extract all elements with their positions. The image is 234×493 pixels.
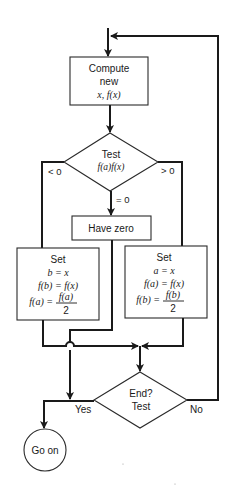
set-right-line3-den: 2: [170, 303, 176, 314]
set-left-line3-den: 2: [63, 305, 69, 316]
go-on-label: Go on: [31, 445, 58, 456]
set-left-line3-num: f(a): [59, 291, 74, 303]
yes-label: Yes: [75, 404, 91, 415]
set-right-line1: a = x: [153, 265, 175, 276]
set-left-box: Set b = x f(b) = f(x) f(a) = f(a) 2: [17, 248, 99, 320]
compute-label-1: Compute: [89, 63, 130, 74]
set-right-line3-num: f(b): [166, 289, 181, 301]
set-left-line3-lhs: f(a) =: [29, 296, 53, 308]
end-label-1: End?: [129, 388, 153, 399]
compute-box: Compute new x, f(x): [70, 57, 148, 105]
right-merge-connector: [142, 318, 183, 346]
end-test-diamond: End? Test: [94, 372, 187, 428]
set-left-line1: b = x: [47, 267, 69, 278]
greater-than-label: > 0: [161, 165, 174, 176]
test-diamond: Test f(a)f(x): [64, 133, 158, 191]
less-than-label: < 0: [48, 166, 61, 177]
scan-speck: [122, 463, 123, 464]
compute-label-3: x, f(x): [96, 89, 121, 101]
have-zero-label: Have zero: [88, 223, 134, 234]
test-label-1: Test: [102, 149, 121, 160]
scan-speck: [174, 483, 175, 484]
set-right-line3-lhs: f(b) =: [136, 294, 160, 306]
set-left-title: Set: [50, 254, 65, 265]
equal-label: = 0: [116, 194, 129, 205]
end-label-2: Test: [132, 401, 151, 412]
set-right-box: Set a = x f(a) = f(x) f(b) = f(b) 2: [125, 246, 207, 318]
left-merge-connector: [43, 320, 138, 346]
test-label-2: f(a)f(x): [98, 162, 125, 173]
no-label: No: [190, 404, 203, 415]
compute-label-2: new: [100, 76, 119, 87]
bisection-flowchart: Compute new x, f(x) Test f(a)f(x) < 0 > …: [0, 0, 234, 493]
set-right-title: Set: [156, 252, 171, 263]
go-on-terminal: Go on: [24, 429, 66, 471]
have-zero-box: Have zero: [72, 216, 151, 240]
